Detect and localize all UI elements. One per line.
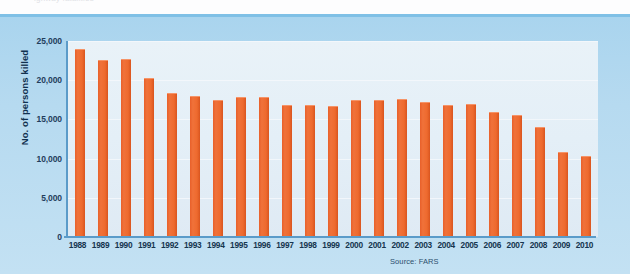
bar [259, 97, 269, 237]
x-axis-tick-labels: 1988198919901991199219931994199519961997… [66, 240, 596, 254]
bar [328, 106, 338, 237]
bar [282, 105, 292, 237]
bar [374, 100, 384, 237]
page-top-strip: ighway fatalities [0, 0, 630, 14]
x-axis-line [64, 236, 596, 238]
bar [535, 127, 545, 237]
y-axis-tick-labels: 05,00010,00015,00020,00025,000 [12, 28, 62, 248]
y-axis-tick-label: 0 [57, 232, 62, 242]
y-axis-tick-label: 5,000 [41, 193, 62, 203]
x-axis-tick-label: 2010 [571, 240, 597, 250]
bar [75, 49, 85, 237]
y-axis-tick-label: 10,000 [37, 154, 62, 164]
bar [558, 152, 568, 237]
bar [581, 156, 591, 237]
figure-panel: No. of persons killed 05,00010,00015,000… [0, 14, 630, 274]
bar [190, 96, 200, 237]
bar [236, 97, 246, 237]
bar [305, 105, 315, 237]
plot-area [66, 41, 598, 237]
y-axis-tick-label: 20,000 [37, 75, 62, 85]
cut-off-caption-text: ighway fatalities [34, 0, 94, 3]
bar [167, 93, 177, 237]
bar [489, 112, 499, 237]
y-axis-tick-label: 25,000 [37, 36, 62, 46]
bar [512, 115, 522, 237]
y-axis-tick-label: 15,000 [37, 114, 62, 124]
bar-series [68, 41, 598, 237]
bar [443, 105, 453, 237]
bar [466, 104, 476, 237]
bar [397, 99, 407, 237]
bar [98, 60, 108, 237]
source-note: Source: FARS [390, 257, 439, 266]
chart-figure: ighway fatalities No. of persons killed … [0, 0, 630, 274]
bar [420, 102, 430, 237]
bar [121, 59, 131, 237]
bar [351, 100, 361, 237]
bar [144, 78, 154, 237]
bar [213, 100, 223, 237]
